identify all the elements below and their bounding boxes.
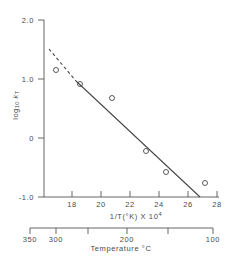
x-tick-label-18: 18 xyxy=(62,200,82,209)
y-tick-label-0: 0 xyxy=(8,134,34,143)
fit-line-solid-segment xyxy=(76,81,200,197)
y-axis-ticks xyxy=(38,20,44,197)
x-tick-label-24: 24 xyxy=(149,200,169,209)
x-tick-label-20: 20 xyxy=(91,200,111,209)
data-point xyxy=(144,149,149,154)
y-tick-label-2.0: 2.0 xyxy=(8,16,34,25)
data-point-markers xyxy=(54,68,208,186)
temp-tick-label-350: 350 xyxy=(20,235,40,244)
y-tick-label--1.0: -1.0 xyxy=(6,193,34,202)
x-tick-label-26: 26 xyxy=(178,200,198,209)
fit-line-dashed-segment xyxy=(49,49,76,81)
temp-tick-label-100: 100 xyxy=(203,235,223,244)
data-point xyxy=(164,170,169,175)
y-axis-label-k-subscript: T xyxy=(14,90,20,94)
data-point xyxy=(78,82,83,87)
temperature-axis-ticks xyxy=(30,228,213,234)
x-tick-label-28: 28 xyxy=(207,200,227,209)
y-axis-label-subscript: 10 xyxy=(14,101,20,108)
x-axis-label: 1/T(°K) X 104 xyxy=(56,211,216,221)
temp-tick-label-200: 200 xyxy=(117,235,137,244)
y-axis-label-log: log xyxy=(11,108,20,120)
data-point xyxy=(54,68,59,73)
arrhenius-plot-figure: 2.0 1.0 0 -1.0 log10 kT 18 20 22 24 26 2… xyxy=(0,0,232,256)
data-point xyxy=(110,96,115,101)
temperature-axis-label: Temperature °C xyxy=(56,244,186,253)
y-axis-label: log10 kT xyxy=(4,82,22,128)
x-tick-label-22: 22 xyxy=(120,200,140,209)
data-point xyxy=(203,181,208,186)
temp-tick-label-300: 300 xyxy=(46,235,66,244)
y-axis-label-k: k xyxy=(11,94,20,98)
x-axis-label-exponent: 4 xyxy=(158,211,162,217)
x-axis-label-main: 1/T(°K) X 10 xyxy=(110,212,159,221)
